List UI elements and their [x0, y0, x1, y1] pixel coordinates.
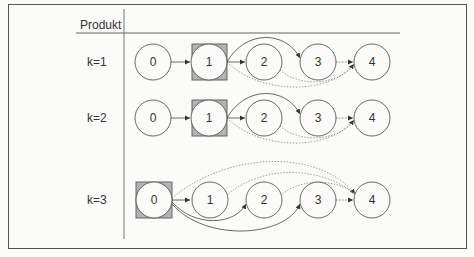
- row-k1-graph: 0 1 2 3 4: [135, 37, 390, 87]
- node-4: 4: [369, 55, 376, 69]
- node-3: 3: [315, 193, 322, 207]
- graph-canvas: 0 1 2 3 4 0 1 2 3 4: [0, 0, 474, 257]
- node-0: 0: [150, 55, 157, 69]
- node-1: 1: [206, 55, 213, 69]
- node-4: 4: [369, 111, 376, 125]
- node-0: 0: [150, 111, 157, 125]
- node-4: 4: [369, 193, 376, 207]
- node-3: 3: [315, 55, 322, 69]
- node-1: 1: [207, 193, 214, 207]
- node-2: 2: [261, 193, 268, 207]
- node-1: 1: [206, 111, 213, 125]
- node-0: 0: [151, 193, 158, 207]
- row-k3-graph: 0 1 2 3 4: [136, 161, 390, 231]
- node-2: 2: [261, 55, 268, 69]
- node-3: 3: [315, 111, 322, 125]
- node-2: 2: [261, 111, 268, 125]
- row-k2-graph: 0 1 2 3 4: [135, 93, 390, 143]
